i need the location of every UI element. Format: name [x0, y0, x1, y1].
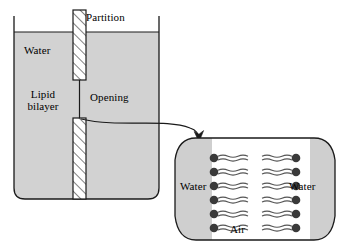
- lipid-head-icon: [292, 210, 301, 219]
- lipid-bilayer-diagram: Partition Water Lipidbilayer Opening Wat…: [0, 0, 340, 252]
- partition-lower-segment: [73, 118, 86, 199]
- tank-water-fill: [12, 32, 162, 202]
- lipid-bilayer-label: Lipidbilayer: [17, 88, 69, 112]
- lipid-head-icon: [210, 168, 219, 177]
- diagram-canvas: [0, 0, 340, 252]
- lipid-bilayer-label-line1: Lipid: [31, 88, 55, 100]
- lipid-head-icon: [210, 196, 219, 205]
- partition-upper-segment: [73, 10, 86, 80]
- inset-water-label-left: Water: [180, 180, 207, 192]
- lipid-head-icon: [292, 196, 301, 205]
- lipid-head-icon: [210, 224, 219, 233]
- partition-label: Partition: [86, 11, 125, 23]
- opening-label: Opening: [90, 91, 129, 103]
- inset-air-label: Air: [230, 223, 245, 235]
- lipid-head-icon: [292, 154, 301, 163]
- lipid-bilayer-label-line2: bilayer: [27, 100, 58, 112]
- lipid-head-icon: [210, 210, 219, 219]
- lipid-head-icon: [292, 224, 301, 233]
- tank-water-label: Water: [24, 44, 51, 56]
- inset-water-label-right: Water: [289, 180, 316, 192]
- water-region: [12, 32, 162, 202]
- lipid-head-icon: [210, 182, 219, 191]
- lipid-head-icon: [292, 168, 301, 177]
- lipid-head-icon: [210, 154, 219, 163]
